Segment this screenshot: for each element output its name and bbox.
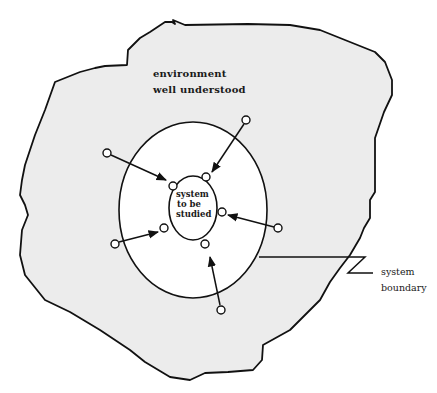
source-node-top xyxy=(242,116,250,124)
environment-label-line1: environment xyxy=(153,68,226,79)
port-node-top xyxy=(202,173,210,181)
boundary-label-line2: boundary xyxy=(381,282,427,293)
port-node-left xyxy=(160,224,168,232)
source-node-right xyxy=(274,224,282,232)
port-node-bottom xyxy=(201,240,209,248)
system-label-line1: system xyxy=(176,189,209,199)
source-node-bottom xyxy=(217,306,225,314)
environment-label-line2: well understood xyxy=(153,84,246,95)
system-environment-diagram xyxy=(0,0,437,393)
system-label-line2: to be xyxy=(177,199,201,209)
system-label-line3: studied xyxy=(176,209,211,219)
source-node-top-left xyxy=(103,149,111,157)
source-node-left xyxy=(111,240,119,248)
port-node-right xyxy=(218,208,226,216)
boundary-label-line1: system xyxy=(381,266,415,277)
